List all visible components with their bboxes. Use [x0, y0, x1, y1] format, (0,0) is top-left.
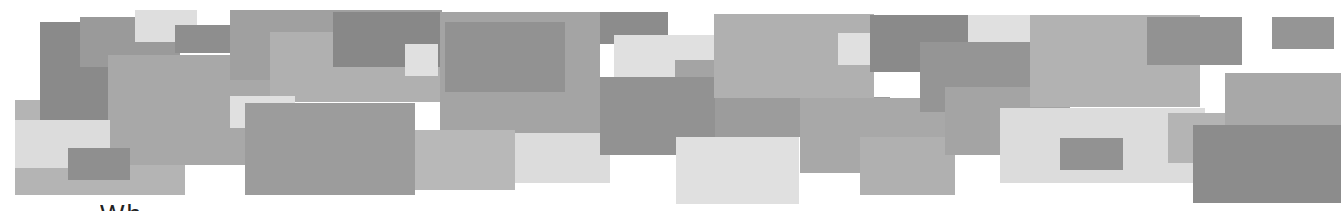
gray-rectangle: [415, 130, 515, 190]
gray-rectangle: [405, 44, 438, 76]
decorative-rectangle-collage: [0, 0, 1341, 211]
gray-rectangle: [68, 148, 130, 180]
gray-rectangle: [245, 103, 415, 195]
gray-rectangle: [515, 133, 610, 183]
gray-rectangle: [1193, 125, 1341, 203]
gray-rectangle: [676, 137, 799, 204]
gray-rectangle: [860, 137, 955, 195]
clipped-caption-text: Wh: [100, 199, 143, 211]
gray-rectangle: [1272, 17, 1334, 49]
gray-rectangle: [1225, 73, 1341, 128]
gray-rectangle: [445, 22, 565, 92]
gray-rectangle: [968, 15, 1030, 43]
gray-rectangle: [1060, 138, 1123, 170]
gray-rectangle: [1147, 17, 1242, 65]
